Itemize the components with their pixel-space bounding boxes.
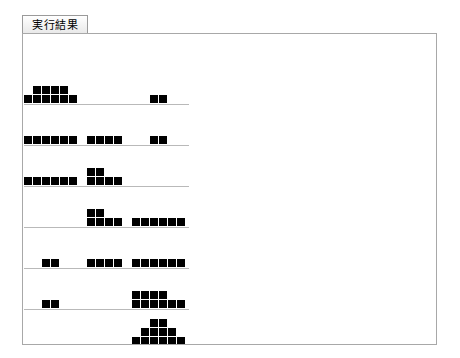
histogram-block [132, 259, 140, 267]
histogram-block [150, 319, 158, 327]
histogram-block [60, 136, 68, 144]
histogram-block [87, 136, 95, 144]
histogram-block [159, 291, 167, 299]
histogram-block [96, 177, 104, 185]
baseline-rule [24, 186, 189, 187]
histogram-block [105, 218, 113, 226]
baseline-rule [24, 268, 189, 269]
histogram-block [96, 259, 104, 267]
histogram-block [69, 136, 77, 144]
histogram-block [159, 136, 167, 144]
histogram-block [141, 259, 149, 267]
histogram-block [60, 177, 68, 185]
histogram-block [51, 300, 59, 308]
baseline-rule [24, 145, 189, 146]
histogram-block [177, 337, 185, 345]
tab-execution-result[interactable]: 実行結果 [22, 15, 88, 34]
histogram-block [96, 136, 104, 144]
histogram-block [42, 86, 50, 94]
histogram-block [87, 209, 95, 217]
histogram-block [114, 136, 122, 144]
histogram-block [168, 337, 176, 345]
histogram-block [150, 328, 158, 336]
histogram-block [42, 300, 50, 308]
histogram-block [150, 259, 158, 267]
histogram-block [150, 136, 158, 144]
histogram-block [150, 337, 158, 345]
histogram-block [87, 168, 95, 176]
histogram-block [141, 291, 149, 299]
histogram-block [51, 95, 59, 103]
baseline-rule [24, 227, 189, 228]
histogram-block [96, 209, 104, 217]
histogram-block [177, 300, 185, 308]
histogram-block [159, 95, 167, 103]
histogram-block [105, 177, 113, 185]
baseline-rule [24, 309, 189, 310]
histogram-block [177, 259, 185, 267]
histogram-block [177, 218, 185, 226]
tab-strip: 実行結果 [22, 14, 88, 34]
histogram-block [168, 259, 176, 267]
histogram-block [114, 259, 122, 267]
tab-label: 実行結果 [32, 20, 78, 31]
histogram-block [132, 218, 140, 226]
histogram-block [33, 136, 41, 144]
histogram-block [159, 337, 167, 345]
histogram-block [24, 95, 32, 103]
histogram-block [114, 218, 122, 226]
histogram-block [33, 177, 41, 185]
baseline-rule [24, 104, 189, 105]
histogram-block [168, 300, 176, 308]
histogram-block [159, 300, 167, 308]
histogram-block [60, 86, 68, 94]
histogram-block [150, 218, 158, 226]
execution-result-panel [22, 33, 437, 345]
histogram-block [42, 95, 50, 103]
histogram-block [159, 328, 167, 336]
histogram-block [141, 328, 149, 336]
histogram-block [87, 259, 95, 267]
histogram-block [132, 291, 140, 299]
histogram-block [132, 300, 140, 308]
histogram-block [51, 259, 59, 267]
histogram-block [33, 95, 41, 103]
histogram-block [42, 177, 50, 185]
histogram-block [150, 95, 158, 103]
histogram-block [87, 177, 95, 185]
histogram-block [60, 95, 68, 103]
histogram-block [105, 136, 113, 144]
histogram-block [168, 328, 176, 336]
histogram-block [51, 136, 59, 144]
histogram-block [42, 136, 50, 144]
histogram-block [114, 177, 122, 185]
histogram-block [150, 300, 158, 308]
histogram-block [132, 337, 140, 345]
histogram-block [96, 218, 104, 226]
histogram-block [24, 177, 32, 185]
histogram-block [141, 300, 149, 308]
histogram-block [168, 218, 176, 226]
histogram-block [159, 319, 167, 327]
histogram-block [42, 259, 50, 267]
histogram-block [51, 86, 59, 94]
application-window: 実行結果 [0, 0, 460, 358]
histogram-block [24, 136, 32, 144]
histogram-block [150, 291, 158, 299]
histogram-block [159, 218, 167, 226]
histogram-block [105, 259, 113, 267]
histogram-block [69, 95, 77, 103]
histogram-block [33, 86, 41, 94]
histogram-block [159, 259, 167, 267]
histogram-canvas [23, 34, 436, 344]
histogram-block [87, 218, 95, 226]
histogram-block [69, 177, 77, 185]
histogram-block [141, 218, 149, 226]
histogram-block [51, 177, 59, 185]
histogram-block [96, 168, 104, 176]
histogram-block [141, 337, 149, 345]
